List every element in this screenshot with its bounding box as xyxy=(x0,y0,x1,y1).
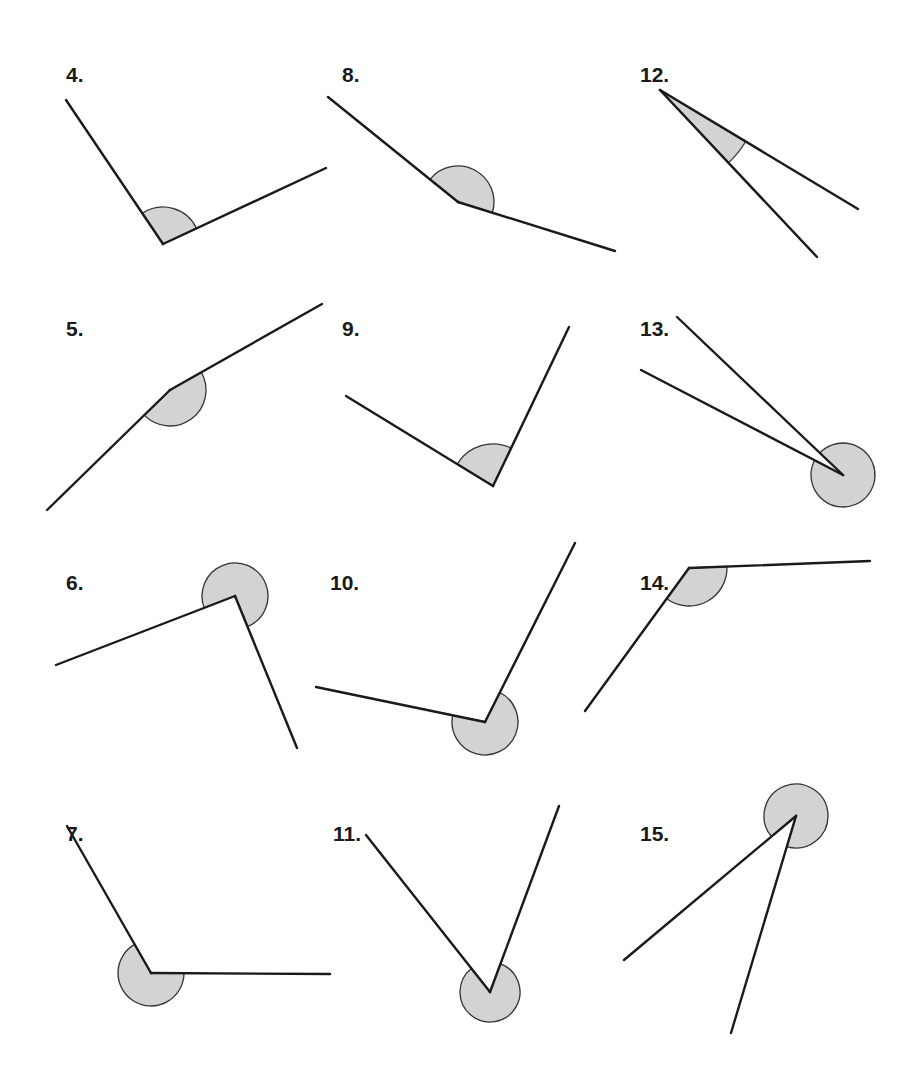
ray-2 xyxy=(490,806,559,992)
angle-marker-shaded xyxy=(118,944,184,1006)
ray-1 xyxy=(660,90,858,209)
vertex-point xyxy=(842,474,844,476)
problem-number-label: 11. xyxy=(333,823,361,844)
angle-problem-9 xyxy=(346,327,569,487)
angles-figure xyxy=(0,0,914,1090)
vertex-point xyxy=(492,485,494,487)
problem-number-label: 15. xyxy=(640,823,669,844)
problem-number-label: 9. xyxy=(342,318,360,339)
ray-2 xyxy=(151,973,330,974)
vertex-point xyxy=(162,243,164,245)
ray-1 xyxy=(677,317,843,475)
angle-problem-13 xyxy=(641,317,875,507)
ray-1 xyxy=(316,687,485,722)
ray-2 xyxy=(731,816,796,1033)
problem-number-label: 8. xyxy=(342,64,360,85)
angle-problem-6 xyxy=(56,563,297,748)
angle-marker-shaded xyxy=(430,166,494,213)
vertex-point xyxy=(484,721,486,723)
angle-marker-shaded xyxy=(202,563,268,627)
vertex-point xyxy=(688,567,690,569)
ray-1 xyxy=(66,100,163,244)
problem-number-label: 12. xyxy=(640,64,669,85)
problem-number-label: 6. xyxy=(66,572,84,593)
angle-problem-12 xyxy=(659,89,858,257)
ray-1 xyxy=(328,97,458,202)
angle-problem-11 xyxy=(366,806,559,1022)
vertex-point xyxy=(234,595,236,597)
vertex-point xyxy=(489,991,491,993)
angle-exercise-sheet: 4.5.6.7.8.9.10.11.12.13.14.15. xyxy=(0,0,914,1090)
vertex-point xyxy=(150,972,152,974)
ray-1 xyxy=(170,304,322,390)
ray-1 xyxy=(366,835,490,992)
ray-1 xyxy=(67,826,151,973)
vertex-point xyxy=(795,815,797,817)
ray-2 xyxy=(458,202,615,251)
problem-number-label: 10. xyxy=(330,572,359,593)
angle-problem-7 xyxy=(67,826,330,1006)
vertex-point xyxy=(659,89,661,91)
ray-1 xyxy=(346,396,493,486)
angle-problem-4 xyxy=(66,100,326,245)
ray-2 xyxy=(235,596,297,748)
problem-number-label: 14. xyxy=(640,572,669,593)
problem-number-label: 4. xyxy=(66,64,84,85)
angle-problem-5 xyxy=(47,304,322,510)
problem-number-label: 7. xyxy=(66,823,84,844)
ray-1 xyxy=(689,561,870,568)
angle-problem-8 xyxy=(328,97,615,251)
ray-2 xyxy=(660,90,817,257)
angle-problem-14 xyxy=(585,561,870,711)
ray-2 xyxy=(585,568,689,711)
vertex-point xyxy=(457,201,459,203)
angle-marker-shaded xyxy=(660,90,746,163)
problem-number-label: 13. xyxy=(640,318,669,339)
problem-number-label: 5. xyxy=(66,318,84,339)
ray-2 xyxy=(493,327,569,486)
vertex-point xyxy=(169,389,171,391)
ray-2 xyxy=(641,370,843,475)
ray-2 xyxy=(163,168,326,244)
ray-2 xyxy=(485,543,575,722)
ray-2 xyxy=(47,390,170,510)
angle-marker-shaded xyxy=(144,372,206,426)
ray-1 xyxy=(56,596,235,665)
angle-marker-shaded xyxy=(452,693,518,755)
